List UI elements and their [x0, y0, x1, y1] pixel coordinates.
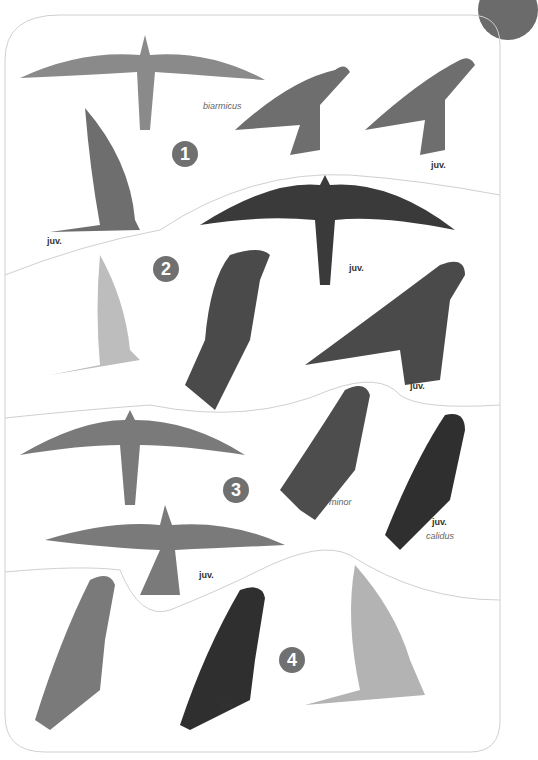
- bird-juv-flight-spread-3: [45, 505, 285, 595]
- bird-pale-flight-2: [50, 255, 140, 375]
- bird-perched-1: [235, 66, 350, 155]
- juvenile-label: juv.: [410, 381, 425, 391]
- subspecies-label-biarmicus: biarmicus: [203, 101, 242, 111]
- bird-flight-spread-3: [20, 410, 245, 505]
- bird-perched-calidus-juv-3: [385, 414, 465, 550]
- juvenile-label: juv.: [199, 570, 214, 580]
- section-number-badge-4: 4: [279, 647, 305, 673]
- juvenile-label: juv.: [349, 263, 364, 273]
- subspecies-label-minor: minor: [329, 497, 352, 507]
- bird-perched-juv-1: [365, 58, 475, 155]
- section-number-badge-1: 1: [172, 141, 198, 167]
- section-number-badge-2: 2: [153, 256, 179, 282]
- bird-pale-flight-4: [305, 565, 425, 705]
- bird-perched-4: [35, 576, 115, 730]
- bird-perched-minor-3: [280, 386, 370, 520]
- juvenile-label: juv.: [220, 700, 235, 710]
- section-number-badge-3: 3: [223, 477, 249, 503]
- bird-flight-spread-1: [20, 35, 265, 130]
- subspecies-label-calidus: calidus: [426, 531, 454, 541]
- juvenile-label: juv.: [431, 160, 446, 170]
- bird-perched-2: [185, 250, 270, 410]
- bird-juv-flight-1: [50, 108, 140, 232]
- juvenile-label: juv.: [432, 517, 447, 527]
- juvenile-label: juv.: [47, 236, 62, 246]
